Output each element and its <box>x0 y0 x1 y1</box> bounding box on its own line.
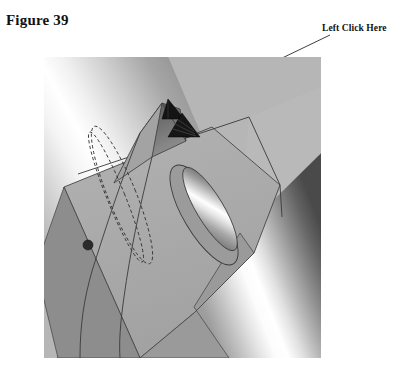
cad-model-viewport[interactable] <box>44 57 321 358</box>
figure-caption: Figure 39 <box>6 12 69 29</box>
cad-model-render <box>44 57 321 358</box>
vertex-point-marker[interactable] <box>83 240 93 250</box>
left-click-here-callout-label: Left Click Here <box>322 23 387 33</box>
